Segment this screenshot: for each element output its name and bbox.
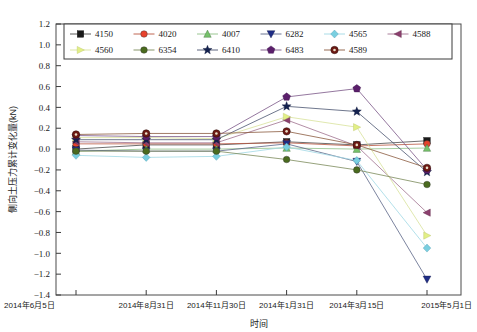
y-tick-label: 0.4 [39,103,51,113]
data-point-4589-1 [143,130,150,137]
legend-marker-4150 [77,31,84,38]
y-tick-label: −1.4 [34,290,51,300]
legend-label-4565: 4565 [349,29,368,39]
legend-label-4020: 4020 [159,29,178,39]
x-tick-label-5: 2015年5月1日 [421,300,472,310]
data-point-6354-5 [424,181,431,188]
legend-label-4007: 4007 [222,29,241,39]
y-tick-label: 0.6 [39,82,51,92]
data-point-6354-3 [283,156,290,163]
legend-label-4588: 4588 [413,29,432,39]
legend-label-6282: 6282 [286,29,304,39]
y-tick-label: 1.2 [39,19,50,29]
data-point-6354-4 [354,167,361,174]
marker-inner [75,133,78,136]
marker-inner [145,132,148,135]
y-tick-label: −1.0 [34,249,51,259]
y-axis-title: 侧向土压力累计变化量(kN) [7,106,18,213]
data-point-6354-2 [213,148,220,155]
y-tick-label: 0.2 [39,123,50,133]
legend-marker-4589 [331,46,338,53]
line-chart: 1.21.00.80.60.40.20.0−0.2−0.4−0.6−0.8−1.… [0,0,477,332]
data-point-4589-2 [213,130,220,137]
legend-box [64,24,452,59]
y-tick-label: 0.0 [39,144,51,154]
data-point-6354-0 [73,148,80,155]
legend-marker-6354 [141,47,148,54]
legend-label-4560: 4560 [95,45,114,55]
data-point-4589-4 [353,141,360,148]
y-tick-label: −0.2 [34,165,50,175]
x-tick-label-1: 2014年8月31日 [119,300,174,310]
data-point-4589-0 [72,131,79,138]
legend-label-6354: 6354 [159,45,178,55]
x-axis-title: 时间 [250,318,268,329]
legend-label-6483: 6483 [286,45,305,55]
marker-inner [333,49,336,52]
marker-inner [215,132,218,135]
data-point-6354-1 [143,148,150,155]
y-tick-label: 0.8 [39,61,51,71]
legend-label-4589: 4589 [349,45,368,55]
x-tick-label-2: 2014年11月30日 [187,300,246,310]
marker-inner [356,144,359,147]
y-tick-label: −0.6 [34,207,51,217]
y-tick-label: −0.8 [34,228,51,238]
y-tick-label: −0.4 [34,186,51,196]
marker-inner [285,130,288,133]
legend-marker-4020 [141,31,148,38]
data-point-4589-3 [283,128,290,135]
x-tick-label-4: 2014年3月15日 [329,300,384,310]
legend-label-4150: 4150 [95,29,114,39]
y-tick-label: −1.2 [34,269,50,279]
y-tick-label: 1.0 [39,40,51,50]
legend-label-6410: 6410 [222,45,241,55]
chart-figure: 1.21.00.80.60.40.20.0−0.2−0.4−0.6−0.8−1.… [0,0,477,332]
x-tick-label-3: 2014年1月31日 [259,300,314,310]
marker-inner [426,167,429,170]
x-tick-label-0: 2014年6月5日 [4,300,55,310]
data-point-4589-5 [423,164,430,171]
